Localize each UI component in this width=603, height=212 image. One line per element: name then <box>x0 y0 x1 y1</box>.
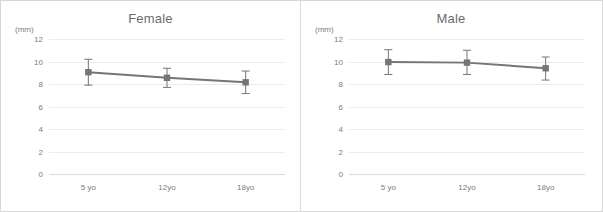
y-axis-tick-label: 8 <box>39 80 43 89</box>
y-axis-tick-label: 12 <box>334 35 343 44</box>
y-axis-tick-label: 10 <box>34 57 43 66</box>
x-axis-tick-label: 18yo <box>537 183 554 192</box>
y-axis-tick-label: 0 <box>39 170 43 179</box>
y-axis-tick-label: 0 <box>339 170 343 179</box>
y-axis-tick-label: 4 <box>39 125 43 134</box>
data-point-marker <box>542 65 548 71</box>
x-axis-tick-label: 12yo <box>158 183 175 192</box>
y-axis-unit-label: (mm) <box>15 25 34 35</box>
y-axis-tick-label: 10 <box>334 57 343 66</box>
x-axis-tick-label: 12yo <box>458 183 475 192</box>
y-axis-tick-label: 8 <box>339 80 343 89</box>
chart-panel-male: Male (mm) 0246810125 yo12yo18yo <box>301 1 601 211</box>
y-axis-tick-label: 6 <box>39 102 43 111</box>
y-axis-tick-label: 2 <box>39 147 43 156</box>
data-point-marker <box>164 75 170 81</box>
x-axis-tick-label: 18yo <box>237 183 254 192</box>
page-title: Female <box>1 11 300 26</box>
page-title: Male <box>301 11 601 26</box>
plot-area-male: 0246810125 yo12yo18yo <box>349 39 585 174</box>
y-axis-tick-label: 6 <box>339 102 343 111</box>
data-point-marker <box>385 59 391 65</box>
x-axis-tick-label: 5 yo <box>381 183 396 192</box>
y-axis-tick-label: 2 <box>339 147 343 156</box>
y-axis-tick-label: 4 <box>339 125 343 134</box>
gridline <box>349 174 585 175</box>
figure-container: Female (mm) 0246810125 yo12yo18yo Male (… <box>0 0 603 212</box>
data-series <box>349 39 585 174</box>
plot-area-female: 0246810125 yo12yo18yo <box>49 39 285 174</box>
y-axis-unit-label: (mm) <box>315 25 334 35</box>
chart-panel-female: Female (mm) 0246810125 yo12yo18yo <box>1 1 301 211</box>
data-point-marker <box>85 69 91 75</box>
data-series <box>49 39 285 174</box>
data-point-marker <box>464 59 470 65</box>
data-point-marker <box>242 79 248 85</box>
y-axis-tick-label: 12 <box>34 35 43 44</box>
x-axis-tick-label: 5 yo <box>81 183 96 192</box>
gridline <box>49 174 285 175</box>
